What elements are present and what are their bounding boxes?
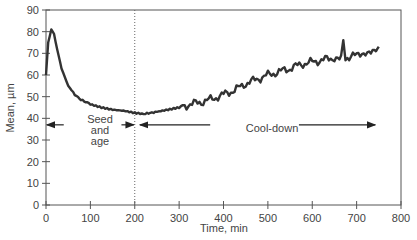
svg-text:100: 100	[81, 212, 99, 224]
svg-text:80: 80	[27, 26, 39, 38]
svg-text:age: age	[91, 135, 109, 147]
svg-text:10: 10	[27, 177, 39, 189]
svg-text:800: 800	[392, 212, 410, 224]
y-axis: 0102030405060708090	[27, 4, 50, 211]
svg-text:700: 700	[347, 212, 365, 224]
data-series	[46, 30, 379, 115]
cool-down-label: Cool-down	[246, 122, 299, 134]
chart: 0102030405060708090 01002003004005006007…	[0, 0, 417, 240]
svg-text:20: 20	[27, 156, 39, 168]
svg-text:0: 0	[33, 199, 39, 211]
seed-and-age-label: Seed and age	[87, 113, 113, 147]
y-axis-label: Mean, µm	[4, 83, 16, 132]
svg-text:70: 70	[27, 47, 39, 59]
svg-text:0: 0	[43, 212, 49, 224]
svg-text:40: 40	[27, 112, 39, 124]
svg-text:500: 500	[259, 212, 277, 224]
svg-text:90: 90	[27, 4, 39, 16]
annotations	[47, 10, 375, 205]
svg-text:60: 60	[27, 69, 39, 81]
svg-text:30: 30	[27, 134, 39, 146]
svg-text:200: 200	[126, 212, 144, 224]
chart-svg: 0102030405060708090 01002003004005006007…	[0, 0, 417, 240]
x-axis: 0100200300400500600700800	[43, 201, 410, 224]
x-axis-label: Time, min	[200, 222, 248, 234]
svg-text:300: 300	[170, 212, 188, 224]
svg-text:50: 50	[27, 91, 39, 103]
svg-text:600: 600	[303, 212, 321, 224]
